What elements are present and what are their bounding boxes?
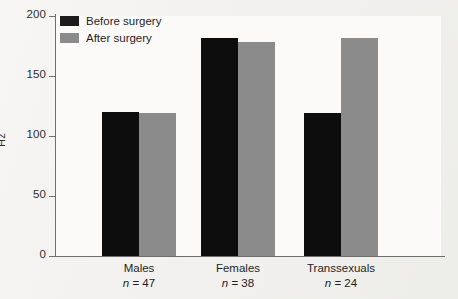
category-label-females: Femalesn = 38 [178, 261, 298, 290]
bar-males-before [102, 112, 139, 256]
y-tick-label-100: 100 [4, 128, 46, 140]
y-tick-50 [49, 196, 56, 197]
bar-females-before [201, 38, 238, 256]
y-tick-label-150: 150 [4, 68, 46, 80]
legend-item-before: Before surgery [60, 13, 161, 28]
bar-males-after [139, 113, 176, 256]
y-tick-150 [49, 76, 56, 77]
y-axis-title: Hz [0, 133, 7, 147]
y-tick-label-200: 200 [4, 8, 46, 20]
bars-layer [56, 16, 441, 256]
y-tick-200 [49, 16, 56, 17]
bar-transsexuals-after [341, 38, 378, 256]
chart-legend: Before surgery After surgery [60, 13, 161, 47]
legend-label-after: After surgery [86, 32, 152, 44]
y-tick-0 [49, 256, 56, 257]
category-sample-size: n = 38 [178, 276, 298, 291]
legend-item-after: After surgery [60, 30, 161, 45]
y-tick-100 [49, 136, 56, 137]
category-name: Females [178, 261, 298, 276]
legend-label-before: Before surgery [86, 15, 161, 27]
category-name: Transsexuals [281, 261, 401, 276]
bar-chart-figure: 200150100500 Hz Before surgery After sur… [0, 0, 458, 299]
y-tick-label-0: 0 [4, 248, 46, 260]
bar-transsexuals-before [304, 113, 341, 256]
category-label-transsexuals: Transsexualsn = 24 [281, 261, 401, 290]
bar-females-after [238, 42, 275, 256]
legend-swatch-before-icon [60, 16, 79, 26]
y-tick-label-50: 50 [4, 188, 46, 200]
category-sample-size: n = 24 [281, 276, 401, 291]
x-axis-line [55, 256, 445, 257]
legend-swatch-after-icon [60, 33, 79, 43]
